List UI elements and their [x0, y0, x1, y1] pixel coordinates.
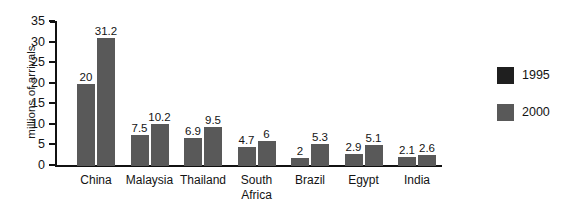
bar-1995[interactable]: 2.9 — [345, 154, 363, 166]
bar-value-label: 2.1 — [399, 144, 415, 156]
bar-value-label: 10.2 — [148, 111, 170, 123]
x-axis-category-label: India — [380, 173, 454, 188]
bar-value-label: 2.9 — [346, 141, 362, 153]
y-axis-tick-label: 30 — [31, 35, 45, 49]
legend-swatch-icon — [497, 67, 514, 84]
y-axis-tick: 15 — [49, 102, 55, 104]
bar-2000[interactable]: 6 — [258, 141, 276, 166]
bar-1995[interactable]: 20 — [77, 84, 95, 166]
legend-item-label: 1995 — [522, 68, 550, 82]
chart-legend: 19952000 — [497, 66, 550, 140]
bar-2000[interactable]: 5.1 — [365, 145, 383, 166]
bar-2000[interactable]: 2.6 — [418, 155, 436, 166]
y-axis-tick: 25 — [49, 61, 55, 63]
y-axis-tick: 20 — [49, 82, 55, 84]
y-axis-tick: 5 — [49, 143, 55, 145]
bar-1995[interactable]: 2 — [291, 158, 309, 166]
bar-2000[interactable]: 10.2 — [151, 124, 169, 166]
y-axis-tick: 30 — [49, 41, 55, 43]
bar-value-label: 2 — [297, 145, 303, 157]
y-axis-tick: 0 — [49, 164, 55, 166]
bar-value-label: 5.3 — [312, 131, 328, 143]
bar-value-label: 31.2 — [95, 25, 117, 37]
y-axis-tick: 10 — [49, 123, 55, 125]
bar-value-label: 4.7 — [239, 134, 255, 146]
bar-1995[interactable]: 2.1 — [398, 157, 416, 166]
legend-item-1995[interactable]: 1995 — [497, 66, 550, 84]
y-axis-tick-label: 0 — [38, 158, 45, 172]
bar-value-label: 6 — [263, 128, 269, 140]
y-axis-tick-label: 20 — [31, 76, 45, 90]
plot-area: 05101520253035 2031.2China7.510.2Malaysi… — [55, 18, 445, 168]
bar-value-label: 7.5 — [132, 122, 148, 134]
bar-1995[interactable]: 7.5 — [131, 135, 149, 166]
y-axis-tick-label: 10 — [31, 117, 45, 131]
bar-chart-figure: millions of arrivals 05101520253035 2031… — [0, 0, 571, 213]
bar-1995[interactable]: 6.9 — [184, 138, 202, 166]
y-axis-tick-label: 15 — [31, 96, 45, 110]
y-axis-line — [55, 21, 57, 165]
bar-value-label: 5.1 — [366, 132, 382, 144]
bar-2000[interactable]: 5.3 — [311, 144, 329, 166]
bar-1995[interactable]: 4.7 — [238, 147, 256, 166]
bar-value-label: 20 — [80, 71, 93, 83]
legend-item-2000[interactable]: 2000 — [497, 103, 550, 121]
y-axis-tick-label: 5 — [38, 137, 45, 151]
y-axis-tick: 35 — [49, 20, 55, 22]
y-axis-tick-label: 35 — [31, 14, 45, 28]
bar-value-label: 9.5 — [205, 114, 221, 126]
bar-2000[interactable]: 9.5 — [204, 127, 222, 166]
legend-swatch-icon — [497, 104, 514, 121]
bar-value-label: 6.9 — [185, 125, 201, 137]
bar-value-label: 2.6 — [419, 142, 435, 154]
bar-2000[interactable]: 31.2 — [97, 38, 115, 166]
legend-item-label: 2000 — [522, 105, 550, 119]
y-axis-tick-label: 25 — [31, 55, 45, 69]
